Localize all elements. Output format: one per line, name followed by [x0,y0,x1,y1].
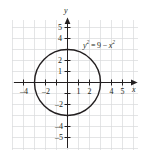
x-tick-label-5: 5 [121,88,125,96]
y-tick-label-4: 4 [58,35,62,43]
y-tick-label-neg5: –5 [55,134,63,142]
y-axis-label: y [64,7,68,15]
y-tick-label-1: 1 [58,68,62,76]
y-axis-arrow [65,18,71,25]
x-tick-label-neg2: –2 [42,88,50,96]
x-tick-label-2: 2 [88,88,92,96]
x-tick-label-1: 1 [77,88,81,96]
equation-equals-sign: = [89,41,97,50]
x-tick-label-neg4: –4 [20,88,28,96]
y-tick-label-neg2: –2 [55,101,63,109]
x-tick-label-4: 4 [110,88,114,96]
y-tick-label-5: 5 [58,24,62,32]
y-tick-label-neg4: –4 [55,123,63,131]
equation-annotation: y2 = 9 − x2 [83,42,115,50]
x-axis [14,80,138,86]
grid-lines [12,20,138,150]
graph-figure: –4 –2 1 2 4 5 5 4 2 1 –2 –4 –5 y x y2 = … [0,0,142,159]
x-axis-label: x [132,86,136,94]
equation-rhs-exponent: 2 [112,39,115,45]
y-tick-label-2: 2 [58,57,62,65]
coordinate-plane-svg [0,0,142,159]
equation-minus-sign: − [101,41,109,50]
